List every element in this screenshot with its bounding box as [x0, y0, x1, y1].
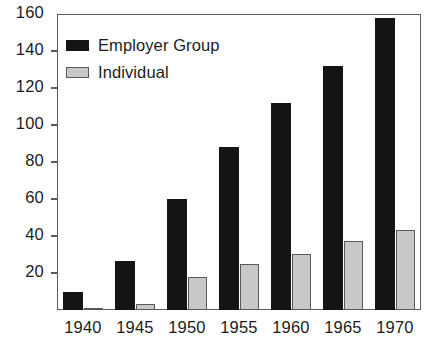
- y-axis-tick-label: 40: [25, 225, 44, 244]
- x-axis-tick-label: 1965: [317, 318, 369, 337]
- y-axis-tick-label: 60: [25, 188, 44, 207]
- bar-employer-group: [323, 66, 343, 310]
- bar-individual: [344, 241, 364, 310]
- bar-individual: [136, 304, 156, 310]
- x-axis-tick-label: 1945: [109, 318, 161, 337]
- bar-employer-group: [219, 147, 239, 310]
- bar-individual: [240, 264, 260, 310]
- bar-employer-group: [63, 292, 83, 311]
- y-axis: 20406080100120140160: [0, 0, 57, 349]
- bar-employer-group: [271, 103, 291, 310]
- legend-swatch-employer-group-icon: [66, 40, 89, 51]
- x-axis-tick-label: 1940: [57, 318, 109, 337]
- y-axis-tick-label: 80: [25, 151, 44, 170]
- bar-individual: [396, 230, 416, 310]
- y-axis-tick-label: 100: [16, 114, 44, 133]
- bar-chart: 20406080100120140160 1940194519501955196…: [0, 0, 434, 349]
- bar-individual: [188, 277, 208, 310]
- x-axis-tick-label: 1970: [369, 318, 421, 337]
- legend-item-individual: Individual: [66, 60, 266, 84]
- bar-individual: [84, 308, 104, 310]
- legend-swatch-individual-icon: [66, 67, 89, 78]
- x-axis: 1940194519501955196019651970: [57, 312, 421, 342]
- bar-group: [323, 14, 363, 310]
- x-axis-tick-label: 1950: [161, 318, 213, 337]
- y-axis-tick-label: 140: [16, 40, 44, 59]
- bar-employer-group: [115, 261, 135, 310]
- legend-label-employer-group: Employer Group: [98, 36, 220, 55]
- x-axis-tick-label: 1960: [265, 318, 317, 337]
- bar-group: [271, 14, 311, 310]
- bar-group: [375, 14, 415, 310]
- bar-employer-group: [375, 18, 395, 310]
- bar-individual: [292, 254, 312, 310]
- bar-employer-group: [167, 199, 187, 310]
- y-axis-tick-label: 20: [25, 262, 44, 281]
- legend-item-employer-group: Employer Group: [66, 33, 266, 57]
- y-axis-tick-label: 160: [16, 3, 44, 22]
- x-axis-tick-label: 1955: [213, 318, 265, 337]
- legend-label-individual: Individual: [98, 63, 169, 82]
- chart-legend: Employer Group Individual: [66, 33, 266, 87]
- y-axis-tick-label: 120: [16, 77, 44, 96]
